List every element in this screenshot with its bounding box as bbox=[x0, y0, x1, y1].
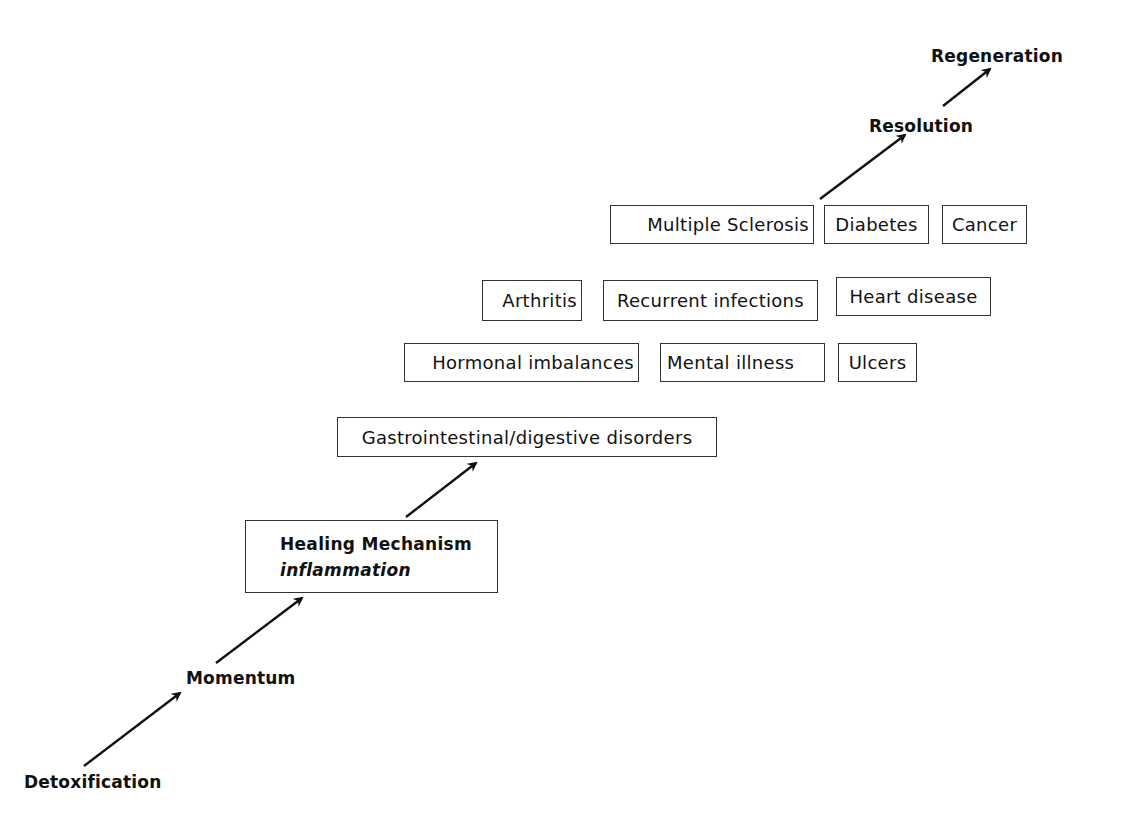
hormonal-imbalances-box: Hormonal imbalances bbox=[404, 343, 639, 382]
healing-mechanism-box: Healing Mechanism inflammation bbox=[245, 520, 498, 593]
arrow-ms-to-resolution bbox=[820, 135, 905, 199]
ulcers-box: Ulcers bbox=[838, 343, 917, 382]
diabetes-box: Diabetes bbox=[824, 205, 929, 244]
heart-disease-box: Heart disease bbox=[836, 277, 991, 316]
arthritis-box: Arthritis bbox=[482, 280, 582, 321]
healing-mechanism-subtitle: inflammation bbox=[280, 557, 411, 583]
stage-resolution: Resolution bbox=[869, 116, 973, 136]
arrow-momentum-to-healing bbox=[216, 598, 302, 663]
cancer-box: Cancer bbox=[942, 205, 1027, 244]
stage-detoxification: Detoxification bbox=[24, 772, 162, 792]
arrow-resolution-to-regeneration bbox=[943, 69, 990, 106]
recurrent-infections-box: Recurrent infections bbox=[603, 280, 818, 321]
arrow-healing-to-gastro bbox=[406, 463, 476, 517]
healing-progression-diagram: Detoxification Momentum Resolution Regen… bbox=[0, 0, 1134, 818]
multiple-sclerosis-box: Multiple Sclerosis bbox=[610, 205, 814, 244]
arrow-detox-to-momentum bbox=[84, 693, 180, 766]
stage-regeneration: Regeneration bbox=[931, 46, 1063, 66]
mental-illness-box: Mental illness bbox=[660, 343, 825, 382]
stage-momentum: Momentum bbox=[186, 668, 296, 688]
healing-mechanism-title: Healing Mechanism bbox=[280, 531, 472, 557]
gastro-disorders-box: Gastrointestinal/digestive disorders bbox=[337, 417, 717, 457]
